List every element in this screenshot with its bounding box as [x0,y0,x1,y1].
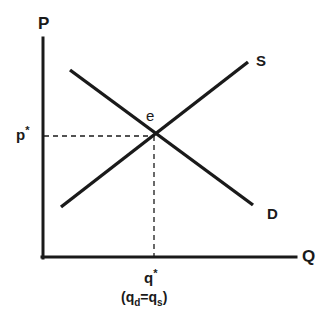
diagram-canvas [0,0,333,323]
equilibrium-price-star: * [25,124,29,136]
supply-demand-figure: P Q S D e p* q* (qd=qs) [0,0,333,323]
supply-curve-label: S [256,53,266,68]
equilibrium-quantity-letter: q [144,269,153,286]
equilibrium-point-label: e [146,108,154,123]
demand-curve-label: D [267,206,278,221]
condition-equals: =q [140,289,157,305]
y-axis-label: P [38,15,49,32]
equilibrium-quantity-star: * [153,267,157,279]
equilibrium-quantity-label: q* [144,270,157,285]
equilibrium-price-label: p* [16,127,29,142]
demand-curve [70,70,253,205]
condition-open-paren: (q [121,289,134,305]
equilibrium-condition-label: (qd=qs) [121,290,167,304]
condition-close-paren: ) [163,289,168,305]
equilibrium-price-letter: p [16,126,25,143]
x-axis-label: Q [302,248,315,265]
